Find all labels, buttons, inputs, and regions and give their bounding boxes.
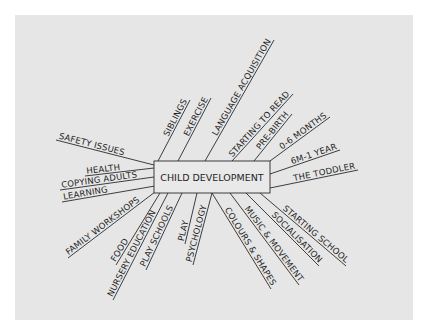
branch-starting-school: STARTING SCHOOL	[260, 193, 351, 266]
branch-label: SAFETY ISSUES	[58, 131, 126, 157]
mind-map: SAFETY ISSUESHEALTHCOPYING ADULTSLEARNIN…	[0, 0, 429, 336]
branch-label: 6M-1 YEAR	[289, 141, 338, 166]
branch-label: THE TODDLER	[291, 161, 356, 184]
center-node: CHILD DEVELOPMENT	[154, 161, 270, 193]
branch-the-toddler: THE TODDLER	[270, 161, 358, 188]
branch-safety-issues: SAFETY ISSUES	[56, 131, 154, 165]
center-label: CHILD DEVELOPMENT	[160, 172, 263, 183]
branch-line	[212, 193, 271, 289]
